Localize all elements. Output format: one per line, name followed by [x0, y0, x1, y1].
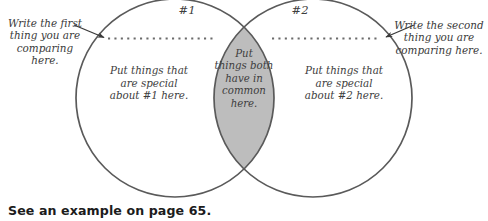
venn-diagram-worksheet: #1 #2 Write the first thing you are comp… [0, 0, 488, 221]
right-circle-label: #2 [280, 3, 320, 17]
left-circle-label: #1 [167, 3, 207, 17]
left-annotation-text: Write the first thing you are comparing … [2, 17, 88, 67]
right-annotation-text: Write the second thing you are comparing… [392, 19, 486, 56]
overlap-region-text: Put things both have in common here. [205, 48, 283, 110]
worksheet-caption: See an example on page 65. [8, 203, 211, 218]
right-only-region-text: Put things that are special about #2 her… [288, 64, 400, 102]
left-only-region-text: Put things that are special about #1 her… [93, 64, 205, 102]
